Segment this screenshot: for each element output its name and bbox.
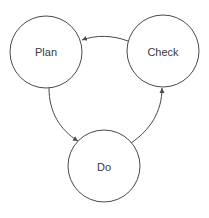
edge-plan-to-do: [49, 88, 78, 141]
edge-do-to-check: [131, 88, 162, 143]
node-plan-label: Plan: [35, 46, 57, 58]
node-do: Do: [68, 130, 140, 202]
node-do-label: Do: [97, 161, 111, 173]
node-check-label: Check: [147, 46, 179, 58]
cycle-diagram: Plan Check Do: [0, 0, 209, 218]
node-plan: Plan: [10, 16, 82, 88]
node-check: Check: [127, 15, 199, 87]
edge-check-to-plan: [82, 36, 128, 41]
